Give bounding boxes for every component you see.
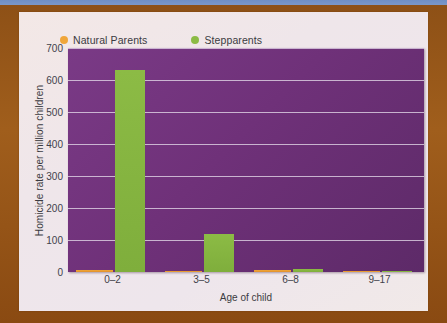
- legend-item-stepparents: Stepparents: [191, 34, 262, 46]
- legend-label: Natural Parents: [73, 34, 147, 46]
- bar-stepparents: [115, 70, 144, 272]
- bar-natural-parents: [343, 271, 380, 273]
- y-axis-tick-label: 400: [46, 139, 63, 150]
- bar-group: [246, 48, 335, 272]
- y-axis-label: Homicide rate per million children: [33, 48, 47, 272]
- bar-stepparents: [204, 234, 233, 272]
- y-axis-tick-label: 100: [46, 235, 63, 246]
- legend-dot-icon: [191, 36, 199, 44]
- y-axis-tick-label: 200: [46, 203, 63, 214]
- y-axis-label-text: Homicide rate per million children: [35, 84, 46, 235]
- x-axis-tick-label: 0–2: [104, 274, 121, 285]
- plot-area: 01002003004005006007000–23–56–89–17: [68, 48, 424, 272]
- x-axis-tick-label: 6–8: [282, 274, 299, 285]
- bar-group: [68, 48, 157, 272]
- y-axis-tick-label: 0: [57, 267, 63, 278]
- y-axis-tick-label: 600: [46, 75, 63, 86]
- legend-label: Stepparents: [204, 34, 262, 46]
- y-axis-tick-label: 500: [46, 107, 63, 118]
- photo-frame: Natural Parents Stepparents Homicide rat…: [0, 0, 447, 323]
- bar-natural-parents: [76, 270, 113, 272]
- bar-stepparents: [293, 269, 322, 272]
- bar-group: [157, 48, 246, 272]
- y-axis-tick-label: 300: [46, 171, 63, 182]
- bar-natural-parents: [165, 271, 202, 273]
- x-axis-tick-label: 3–5: [193, 274, 210, 285]
- legend-item-natural-parents: Natural Parents: [60, 34, 147, 46]
- y-axis-tick-label: 700: [46, 43, 63, 54]
- bar-stepparents: [382, 271, 411, 273]
- bar-group: [335, 48, 424, 272]
- bar-natural-parents: [254, 270, 291, 272]
- chart-page: Natural Parents Stepparents Homicide rat…: [19, 12, 428, 311]
- bar-chart: Natural Parents Stepparents Homicide rat…: [19, 12, 428, 311]
- chart-legend: Natural Parents Stepparents: [60, 33, 306, 47]
- top-edge-strip: [0, 0, 447, 5]
- x-axis-label: Age of child: [68, 292, 424, 303]
- x-axis-tick-label: 9–17: [368, 274, 390, 285]
